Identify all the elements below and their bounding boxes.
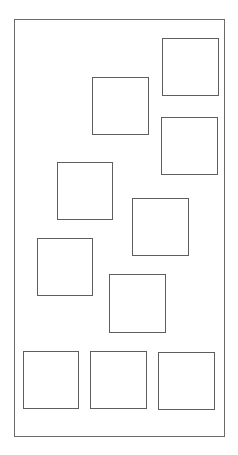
square-box-9 [90,351,147,409]
square-box-6 [37,238,93,296]
square-box-4 [57,162,113,220]
square-box-10 [158,352,215,410]
square-box-2 [92,77,149,135]
square-box-7 [109,274,166,333]
square-box-1 [162,38,219,96]
square-box-3 [161,117,218,175]
square-box-5 [132,198,189,256]
square-box-8 [23,351,79,409]
